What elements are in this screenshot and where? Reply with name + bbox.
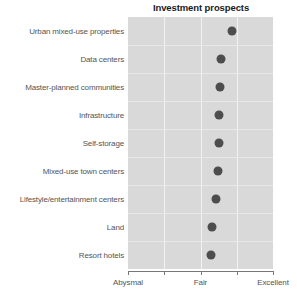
axis-tick-label: Fair (194, 278, 207, 287)
chart-root: Investment prospects Urban mixed-use pro… (0, 0, 297, 307)
data-point (217, 55, 226, 64)
horizontal-gridline (128, 157, 273, 158)
data-point (208, 223, 217, 232)
data-point (216, 83, 225, 92)
category-label: Master-planned communities (0, 83, 124, 92)
axis-tick (201, 271, 202, 275)
category-axis-labels: Urban mixed-use propertiesData centersMa… (0, 17, 124, 269)
horizontal-gridline (128, 73, 273, 74)
data-point (215, 139, 224, 148)
horizontal-gridline (128, 213, 273, 214)
category-label: Data centers (0, 55, 124, 64)
category-label: Self-storage (0, 139, 124, 148)
vertical-gridline (164, 17, 165, 269)
data-point (212, 195, 221, 204)
horizontal-gridline (128, 129, 273, 130)
axis-tick-label: Abysmal (113, 278, 143, 287)
axis-tick (164, 271, 165, 275)
data-point (215, 111, 224, 120)
horizontal-gridline (128, 45, 273, 46)
chart-title: Investment prospects (128, 2, 274, 13)
data-point (227, 27, 236, 36)
horizontal-gridline (128, 185, 273, 186)
vertical-gridline (237, 17, 238, 269)
axis-tick (128, 271, 129, 275)
axis-tick (237, 271, 238, 275)
vertical-gridline (201, 17, 202, 269)
category-label: Mixed-use town centers (0, 167, 124, 176)
category-label: Infrastructure (0, 111, 124, 120)
axis-tick (273, 271, 274, 275)
axis-tick-label: Excellent (257, 278, 289, 287)
horizontal-gridline (128, 101, 273, 102)
category-label: Land (0, 223, 124, 232)
data-point (214, 167, 223, 176)
category-label: Urban mixed-use properties (0, 27, 124, 36)
plot-area (128, 17, 273, 269)
category-label: Lifestyle/entertainment centers (0, 195, 124, 204)
category-label: Resort hotels (0, 251, 124, 260)
horizontal-gridline (128, 241, 273, 242)
data-point (206, 251, 215, 260)
